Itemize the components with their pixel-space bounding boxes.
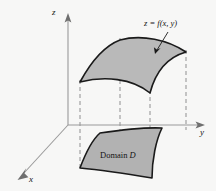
diagram-canvas [0,0,216,191]
x-axis-line [24,125,68,173]
surface-patch [80,38,186,93]
domain-label-word: Domain [100,150,127,160]
z-axis-label: z [52,8,56,17]
x-axis-label: x [29,175,33,184]
y-axis-label: y [200,128,204,137]
figure-container: z y x z = f(x, y) Domain D [0,0,216,191]
domain-label: Domain D [100,151,136,160]
surface-equation-label: z = f(x, y) [144,19,177,28]
domain-label-symbol: D [130,150,136,160]
